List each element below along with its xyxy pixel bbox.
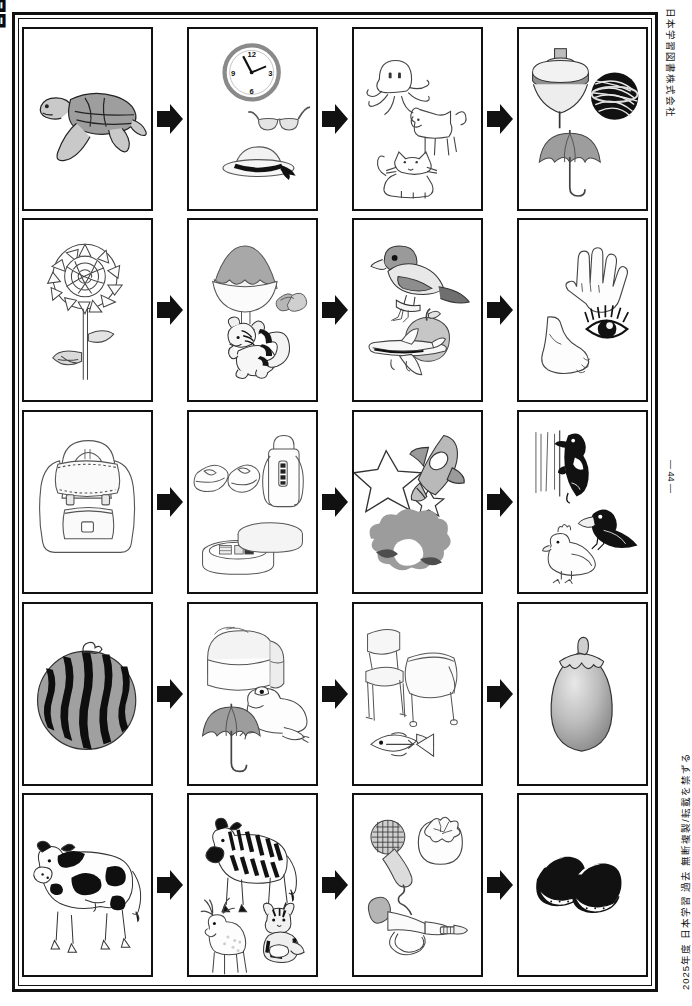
sunflower-icon [24, 220, 151, 400]
svg-text:6: 6 [250, 87, 254, 96]
lunch-box-icon [203, 523, 303, 575]
zebra-icon [206, 818, 296, 911]
arrow-r2-1 [153, 293, 187, 327]
cell-r2c2-shavedice-acorns-squirrel[interactable] [187, 218, 318, 402]
arrow-r5-3 [483, 868, 517, 902]
arrow-r4-2 [318, 677, 352, 711]
chair-icon [366, 629, 407, 720]
tree-trunk [536, 430, 560, 496]
cell-r3c3-star-rocket-moon[interactable] [352, 410, 483, 594]
cell-r5c3-microphone-persimmon-trumpet[interactable] [352, 793, 483, 977]
arrow-r1-2 [318, 102, 352, 136]
sea-turtle-icon [24, 29, 151, 209]
cat-icon [377, 152, 437, 199]
eyeglasses-icon [248, 107, 310, 130]
octopus-icon [367, 60, 429, 114]
acorns-icon [276, 294, 307, 312]
persimmon-icon [418, 817, 462, 864]
cell-r3c4-woodpecker-crow-chicken[interactable] [517, 410, 648, 594]
rocket-icon [410, 436, 464, 501]
cell-r2c3-bird-apple-airplane[interactable] [352, 218, 483, 402]
temari-ball-icon [591, 72, 638, 119]
cell-r1c1-sea-turtle[interactable] [22, 27, 153, 211]
umbrella-icon [539, 130, 600, 196]
shaved-ice-icon [213, 246, 277, 331]
worksheet-row-5 [22, 789, 648, 981]
cell-r2c1-sunflower[interactable] [22, 218, 153, 402]
sparrow-icon [371, 246, 469, 322]
arrow-r1-1 [153, 102, 187, 136]
page-number: — 44 — [666, 460, 676, 493]
hand-icon [566, 248, 628, 313]
cell-r3c2-shoes-bottle-lunchbox[interactable] [187, 410, 318, 594]
svg-text:9: 9 [231, 69, 235, 78]
chicken-icon [543, 524, 596, 583]
cell-r4c2-bread-frog-umbrella[interactable] [187, 602, 318, 786]
bread-loaf-icon [208, 627, 284, 690]
cell-r5c1-cow[interactable] [22, 793, 153, 977]
desk-icon [405, 653, 457, 727]
water-bottle-icon [263, 436, 304, 507]
spinning-top-icon [533, 49, 589, 129]
worksheet-frame-inner: 12 3 6 9 [18, 18, 652, 986]
arrow-r3-3 [483, 485, 517, 519]
arrow-r3-1 [153, 485, 187, 519]
cell-r3c1-backpack[interactable] [22, 410, 153, 594]
cell-r4c4-eggplant[interactable] [517, 602, 648, 786]
arrow-r2-3 [483, 293, 517, 327]
cell-r2c4-hand-eye-foot[interactable] [517, 218, 648, 402]
cell-r4c3-chair-desk-fish[interactable] [352, 602, 483, 786]
cow-icon [24, 795, 151, 975]
arrow-r5-1 [153, 868, 187, 902]
foot-icon [542, 317, 590, 374]
cell-r4c1-watermelon[interactable] [22, 602, 153, 786]
crow-icon [578, 510, 637, 550]
cell-r1c3-octopus-dog-cat[interactable] [352, 27, 483, 211]
moon-clouds-icon [370, 509, 451, 570]
worksheet-row-3 [22, 406, 648, 598]
copyright-notice: 2025年度 日本学習 過去 無断複製/転載を禁ずる [678, 752, 692, 990]
arrow-r2-2 [318, 293, 352, 327]
backpack-icon [24, 412, 151, 592]
wall-clock-icon: 12 3 6 9 [225, 45, 279, 99]
svg-text:3: 3 [268, 69, 272, 78]
eggplant-icon [519, 604, 646, 784]
squirrel-icon [228, 317, 290, 378]
fish-icon [371, 732, 434, 755]
svg-text:12: 12 [247, 50, 255, 59]
umbrella-icon [203, 703, 261, 771]
cell-r5c4-chestnuts[interactable] [517, 793, 648, 977]
star-big-icon [354, 451, 422, 512]
shoes-icon [194, 465, 260, 492]
chestnuts-icon [519, 795, 646, 975]
watermelon-icon [24, 604, 151, 784]
arrow-r5-2 [318, 868, 352, 902]
dog-icon [411, 108, 466, 155]
arrow-r3-2 [318, 485, 352, 519]
tiger-icon [264, 903, 305, 962]
cell-r5c2-zebra-deer-tiger[interactable] [187, 793, 318, 977]
cell-r1c4-top-ball-umbrella[interactable] [517, 27, 648, 211]
worksheet-row-2 [22, 215, 648, 407]
worksheet-row-4 [22, 598, 648, 790]
worksheet-frame: 12 3 6 9 [12, 12, 658, 992]
arrow-r1-3 [483, 102, 517, 136]
publisher-imprint: 日本学習図書株式会社 [664, 8, 678, 118]
sun-hat-icon [223, 147, 296, 180]
worksheet-row-1: 12 3 6 9 [22, 23, 648, 215]
trumpet-icon [368, 897, 467, 955]
cell-r1c2-clock-glasses-hat[interactable]: 12 3 6 9 [187, 27, 318, 211]
arrow-r4-1 [153, 677, 187, 711]
arrow-r4-3 [483, 677, 517, 711]
